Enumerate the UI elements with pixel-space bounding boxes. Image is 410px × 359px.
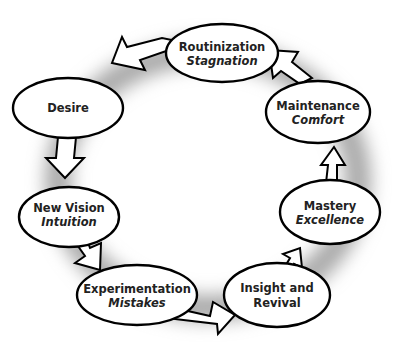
node-maintenance: Maintenance Comfort <box>266 81 370 143</box>
node-routinization: Routinization Stagnation <box>166 24 278 82</box>
node-mastery: Mastery Excellence <box>280 180 380 244</box>
node-title: Mastery <box>304 199 357 213</box>
node-desire: Desire <box>13 78 123 138</box>
node-insight-and-revival: Insight and Revival <box>224 263 330 327</box>
node-title: Experimentation <box>83 282 191 296</box>
node-title: Desire <box>47 101 89 115</box>
node-subtitle: Mistakes <box>108 296 166 310</box>
node-title: Routinization <box>179 40 266 54</box>
node-subtitle: Comfort <box>292 113 345 127</box>
node-subtitle: Excellence <box>296 213 365 227</box>
node-new-vision: New Vision Intuition <box>19 187 119 247</box>
cycle-diagram: Routinization Stagnation Desire New Visi… <box>0 0 410 359</box>
node-title-line2: Revival <box>253 296 300 310</box>
node-subtitle: Stagnation <box>186 54 257 68</box>
node-title: Insight and <box>240 281 313 295</box>
node-experimentation: Experimentation Mistakes <box>77 265 197 325</box>
node-title: New Vision <box>33 201 105 215</box>
node-title: Maintenance <box>276 99 360 113</box>
node-subtitle: Intuition <box>41 215 97 229</box>
